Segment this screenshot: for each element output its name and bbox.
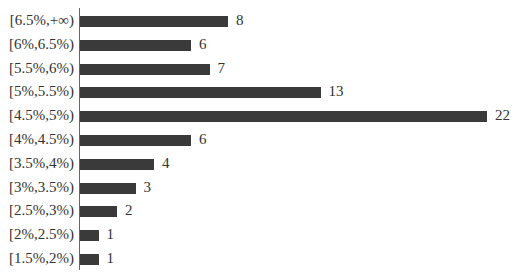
bar [80,159,154,170]
bar [80,230,99,241]
category-label: [1.5%,2%) [9,250,74,267]
bar-row: [3%,3.5%)3 [0,176,521,200]
category-label: [3.5%,4%) [9,155,74,172]
category-label: [4%,4.5%) [9,131,74,148]
value-label: 3 [144,179,152,196]
bar [80,87,321,98]
bar [80,16,228,27]
bar-row: [5%,5.5%)13 [0,80,521,104]
bar [80,254,99,265]
category-label: [4.5%,5%) [9,107,74,124]
category-label: [2%,2.5%) [9,226,74,243]
bar-row: [6.5%,+∞)8 [0,9,521,33]
category-label: [6.5%,+∞) [10,12,74,29]
value-label: 1 [107,226,115,243]
value-label: 6 [199,36,207,53]
value-label: 8 [236,12,244,29]
bar-row: [1.5%,2%)1 [0,247,521,271]
category-label: [6%,6.5%) [9,36,74,53]
bar-row: [2%,2.5%)1 [0,223,521,247]
category-label: [5.5%,6%) [9,60,74,77]
category-label: [2.5%,3%) [9,202,74,219]
bar [80,64,210,75]
value-label: 7 [218,60,226,77]
bar [80,111,487,122]
horizontal-bar-chart: [6.5%,+∞)8[6%,6.5%)6[5.5%,6%)7[5%,5.5%)1… [0,0,521,280]
category-label: [5%,5.5%) [9,83,74,100]
value-label: 2 [125,202,133,219]
category-label: [3%,3.5%) [9,179,74,196]
bar-row: [3.5%,4%)4 [0,152,521,176]
bar [80,206,117,217]
bar-row: [4.5%,5%)22 [0,104,521,128]
bar [80,135,191,146]
bar-row: [2.5%,3%)2 [0,199,521,223]
bar-row: [6%,6.5%)6 [0,33,521,57]
value-label: 1 [107,250,115,267]
bar-row: [5.5%,6%)7 [0,57,521,81]
value-label: 6 [199,131,207,148]
bar [80,40,191,51]
value-label: 13 [329,83,344,100]
bar-row: [4%,4.5%)6 [0,128,521,152]
value-label: 22 [495,107,510,124]
value-label: 4 [162,155,170,172]
bar [80,183,136,194]
